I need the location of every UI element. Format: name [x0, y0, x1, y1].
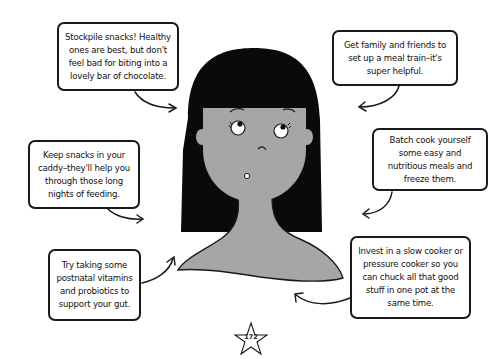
tip-text: Get family and friends to set up a meal …: [338, 39, 452, 78]
left-ear: [196, 129, 208, 145]
right-ear: [301, 129, 313, 145]
tip-meal-train: Get family and friends to set up a meal …: [332, 30, 458, 86]
tip-stockpile-snacks: Stockpile snacks! Healthy ones are best,…: [57, 22, 179, 91]
tip-batch-cook: Batch cook yourself some easy and nutrit…: [372, 128, 488, 191]
tip-text: Try taking some postnatal vitamins and p…: [54, 259, 135, 311]
tip-caddy-snacks: Keep snacks in your caddy–they'll help y…: [28, 140, 140, 209]
page-number: 172: [240, 333, 262, 341]
mouth: [244, 173, 249, 178]
tip-text: Keep snacks in your caddy–they'll help y…: [34, 149, 134, 201]
tip-text: Invest in a slow cooker or pressure cook…: [356, 245, 465, 310]
tip-slow-cooker: Invest in a slow cooker or pressure cook…: [350, 236, 471, 319]
tip-text: Stockpile snacks! Healthy ones are best,…: [63, 31, 173, 83]
tip-text: Batch cook yourself some easy and nutrit…: [378, 134, 482, 186]
tip-postnatal-vitamins: Try taking some postnatal vitamins and p…: [48, 249, 141, 321]
